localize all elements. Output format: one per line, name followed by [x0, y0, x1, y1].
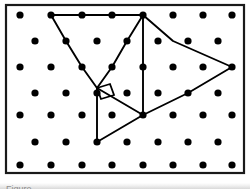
- lattice-dot-r0-c7: [228, 11, 235, 18]
- lattice-dot-r0-c6: [199, 11, 206, 18]
- lattice-dot-r3-c3: [123, 89, 130, 96]
- lattice-dot-r6-c2: [78, 161, 85, 168]
- lattice-dot-r4-c2: [78, 111, 85, 118]
- lattice-dot-r0-c0: [16, 11, 23, 18]
- figure-root: Figure: [0, 0, 250, 189]
- lattice-dot-r6-c7: [228, 161, 235, 168]
- lattice-dot-r6-c3: [108, 161, 115, 168]
- lattice-dot-r4-c3: [108, 111, 115, 118]
- caption-sliver: Figure: [6, 184, 156, 189]
- lattice-dot-r4-c6: [199, 111, 206, 118]
- lattice-dot-r1-c5: [184, 37, 191, 44]
- lattice-dot-r2-c1: [47, 63, 54, 70]
- lattice-dot-r6-c5: [169, 161, 176, 168]
- lattice-dot-r4-c0: [16, 111, 23, 118]
- lattice-dot-r6-c1: [47, 161, 54, 168]
- lattice-dot-r2-c6: [199, 63, 206, 70]
- lattice-dot-r1-c4: [154, 37, 161, 44]
- lattice-dot-r4-c1: [47, 111, 54, 118]
- lattice-dot-r5-c5: [184, 138, 191, 145]
- lattice-dot-r3-c1: [62, 89, 69, 96]
- lattice-dot-r5-c0: [31, 138, 38, 145]
- lattice-dot-r4-c5: [169, 111, 176, 118]
- lattice-dot-r6-c4: [139, 161, 146, 168]
- lattice-dot-r1-c6: [214, 37, 221, 44]
- lattice-dot-r5-c1: [62, 138, 69, 145]
- lattice-dot-r1-c2: [93, 37, 100, 44]
- lattice-dot-r6-c0: [16, 161, 23, 168]
- lattice-dot-r3-c6: [214, 89, 221, 96]
- lattice-dot-r1-c0: [31, 37, 38, 44]
- lattice-dot-r6-c6: [199, 161, 206, 168]
- lattice-dot-r4-c7: [228, 111, 235, 118]
- lattice-dot-r5-c4: [154, 138, 161, 145]
- lattice-dot-r5-c6: [214, 138, 221, 145]
- lattice-dot-r2-c5: [169, 63, 176, 70]
- lattice-dot-r3-c0: [31, 89, 38, 96]
- lattice-dot-r2-c0: [16, 63, 23, 70]
- dot-lattice-figure-canvas: [0, 0, 250, 189]
- lattice-dot-r0-c5: [169, 11, 176, 18]
- lattice-dot-r5-c3: [123, 138, 130, 145]
- lattice-dot-r3-c4: [154, 89, 161, 96]
